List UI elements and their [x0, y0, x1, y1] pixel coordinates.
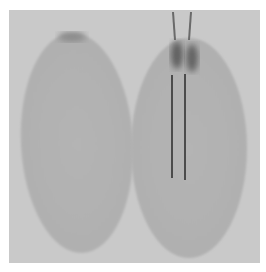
right-seed [131, 38, 247, 258]
seeds-illustration [9, 10, 260, 263]
photograph [9, 10, 260, 263]
left-seed [15, 30, 138, 256]
